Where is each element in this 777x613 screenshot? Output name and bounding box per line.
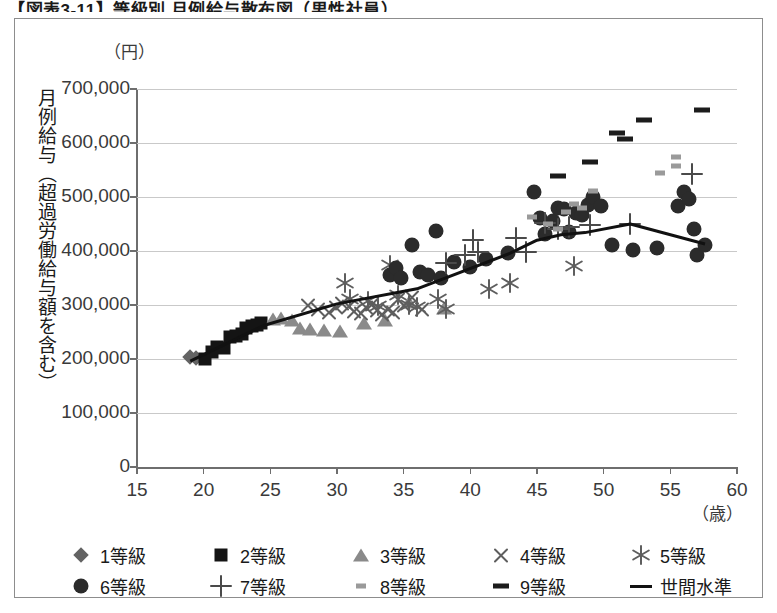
legend-item-4等級[interactable]: 4等級 bbox=[490, 540, 630, 570]
y-axis-tick-label: 700,000 bbox=[61, 77, 130, 99]
diamond-icon bbox=[70, 544, 92, 566]
x-axis-tick-label: 55 bbox=[660, 479, 681, 501]
legend-label: 7等級 bbox=[240, 573, 286, 599]
x-axis-tick bbox=[270, 467, 272, 474]
x-axis-tick-label: 40 bbox=[460, 479, 481, 501]
y-axis-tick-label: 200,000 bbox=[61, 347, 130, 369]
x-axis-tick bbox=[603, 467, 605, 474]
x-axis-tick bbox=[136, 467, 138, 474]
legend-item-8等級[interactable]: 8等級 bbox=[350, 571, 490, 601]
legend-label: 9等級 bbox=[520, 573, 566, 599]
trendline-market-level bbox=[137, 89, 737, 467]
chart-legend: 1等級2等級3等級4等級5等級6等級7等級8等級9等級世間水準 bbox=[70, 540, 770, 602]
chart-title: 【図表3-11】等級別 月例給与散布図（男性社員） bbox=[0, 0, 777, 12]
legend-item-3等級[interactable]: 3等級 bbox=[350, 540, 490, 570]
y-axis-tick-label: 300,000 bbox=[61, 293, 130, 315]
circle-icon bbox=[70, 575, 92, 597]
y-axis-tick bbox=[130, 304, 137, 306]
legend-label: 3等級 bbox=[380, 542, 426, 568]
x-axis-tick-label: 60 bbox=[726, 479, 747, 501]
legend-item-9等級[interactable]: 9等級 bbox=[490, 571, 630, 601]
x-axis-tick bbox=[736, 467, 738, 474]
x-axis-tick-label: 50 bbox=[593, 479, 614, 501]
y-axis-tick bbox=[130, 142, 137, 144]
legend-label: 4等級 bbox=[520, 542, 566, 568]
x-axis-tick bbox=[403, 467, 405, 474]
x-axis-tick bbox=[536, 467, 538, 474]
plus-icon bbox=[210, 575, 232, 597]
legend-item-世間水準[interactable]: 世間水準 bbox=[630, 571, 770, 601]
asterisk-icon bbox=[630, 544, 652, 566]
x-axis-tick-label: 25 bbox=[260, 479, 281, 501]
y-axis-tick-label: 600,000 bbox=[61, 131, 130, 153]
plot-area: 15202530354045505560 bbox=[137, 89, 737, 467]
x-axis-tick bbox=[670, 467, 672, 474]
legend-item-1等級[interactable]: 1等級 bbox=[70, 540, 210, 570]
x-icon bbox=[490, 544, 512, 566]
legend-label: 2等級 bbox=[240, 542, 286, 568]
x-axis-tick bbox=[470, 467, 472, 474]
legend-item-7等級[interactable]: 7等級 bbox=[210, 571, 350, 601]
y-axis-tick bbox=[130, 412, 137, 414]
y-axis-tick-label: 500,000 bbox=[61, 185, 130, 207]
y-axis-tick-labels: 700,000600,000500,000400,000300,000200,0… bbox=[0, 89, 130, 469]
dash-large-icon bbox=[490, 575, 512, 597]
y-axis-tick-label: 100,000 bbox=[61, 401, 130, 423]
y-axis-tick bbox=[130, 196, 137, 198]
legend-item-6等級[interactable]: 6等級 bbox=[70, 571, 210, 601]
x-axis-tick-label: 45 bbox=[526, 479, 547, 501]
x-axis-tick-label: 35 bbox=[393, 479, 414, 501]
y-axis-tick bbox=[130, 250, 137, 252]
legend-label: 世間水準 bbox=[660, 573, 732, 599]
y-axis-tick-label: 400,000 bbox=[61, 239, 130, 261]
x-axis-line bbox=[137, 467, 737, 469]
legend-item-5等級[interactable]: 5等級 bbox=[630, 540, 770, 570]
y-axis-tick-label: 0 bbox=[119, 455, 130, 477]
dash-small-icon bbox=[350, 575, 372, 597]
legend-label: 1等級 bbox=[100, 542, 146, 568]
y-axis-tick bbox=[130, 358, 137, 360]
x-axis-tick-label: 20 bbox=[193, 479, 214, 501]
line-icon bbox=[630, 575, 652, 597]
legend-label: 8等級 bbox=[380, 573, 426, 599]
x-axis-tick bbox=[203, 467, 205, 474]
legend-row: 1等級2等級3等級4等級5等級 bbox=[70, 540, 770, 570]
legend-label: 6等級 bbox=[100, 573, 146, 599]
y-axis-unit-label: （円） bbox=[104, 38, 155, 63]
trendline-path bbox=[190, 224, 705, 361]
x-axis-tick-label: 15 bbox=[126, 479, 147, 501]
square-icon bbox=[210, 544, 232, 566]
x-axis-unit-label: （歳） bbox=[692, 500, 743, 525]
legend-item-2等級[interactable]: 2等級 bbox=[210, 540, 350, 570]
y-axis-tick bbox=[130, 88, 137, 90]
triangle-icon bbox=[350, 544, 372, 566]
x-axis-tick-label: 30 bbox=[326, 479, 347, 501]
legend-row: 6等級7等級8等級9等級世間水準 bbox=[70, 571, 770, 601]
x-axis-tick bbox=[336, 467, 338, 474]
legend-label: 5等級 bbox=[660, 542, 706, 568]
